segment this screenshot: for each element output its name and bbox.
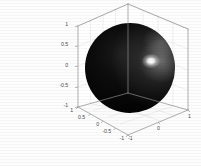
figure-container: 1 0.5 0 -0.5 -1 1 0.5 0 -0.5 -1 -1 0 1 (0, 0, 201, 166)
z-tick-05 (75, 46, 78, 47)
y-tick-label-m1: -1 (112, 136, 124, 141)
y-tick-0 (101, 121, 103, 123)
z-tick-m05 (75, 87, 78, 88)
x-tick-label-m1: -1 (128, 136, 132, 141)
z-tick-label-0: 0 (57, 63, 68, 68)
z-tick-label-05: 0.5 (57, 42, 68, 47)
y-tick-label-m05: -0.5 (98, 129, 111, 134)
x-tick-1 (188, 110, 190, 112)
y-tick-label-0: 0 (88, 122, 99, 127)
z-tick-label-m05: -0.5 (55, 83, 68, 88)
x-tick-label-1: 1 (188, 114, 191, 119)
y-tick-label-05: 0.5 (73, 115, 85, 120)
z-tick-label-1: 1 (57, 22, 68, 27)
z-tick-0 (75, 66, 78, 67)
x-tick-label-0: 0 (157, 126, 160, 131)
y-tick-label-1: 1 (62, 108, 73, 113)
sphere-specular-highlight (142, 54, 161, 69)
y-tick-05 (89, 114, 91, 116)
z-tick-1 (75, 26, 78, 27)
y-tick-m05 (114, 128, 116, 130)
sphere-3d-plot (0, 0, 201, 166)
